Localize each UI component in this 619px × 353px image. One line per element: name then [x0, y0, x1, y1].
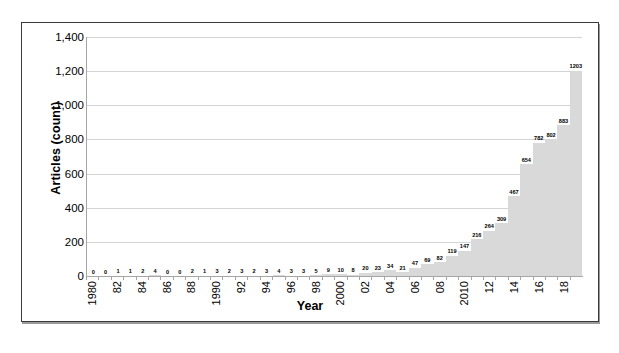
bar-slot: 802 — [545, 37, 557, 276]
bar-value-label: 4 — [277, 268, 280, 275]
bar[interactable] — [570, 71, 582, 276]
bar-value-label: 802 — [546, 132, 555, 139]
x-tick-mark — [347, 276, 348, 280]
bar[interactable] — [508, 196, 520, 276]
bar[interactable] — [434, 262, 446, 276]
bar-slot: 3 — [211, 37, 223, 276]
y-axis-tick-labels: 02004006008001,0001,2001,400 — [34, 37, 84, 276]
bar-value-label: 47 — [412, 260, 418, 267]
x-tick-label: 14 — [508, 281, 520, 293]
bar[interactable] — [495, 223, 507, 276]
bar-slot: 2 — [186, 37, 198, 276]
x-tick-mark — [446, 276, 447, 280]
bar-slot: 119 — [446, 37, 458, 276]
x-tick-mark — [198, 276, 199, 280]
x-tick-mark — [297, 276, 298, 280]
x-tick-mark — [148, 276, 149, 280]
bar[interactable] — [557, 125, 569, 276]
x-tick-mark — [384, 276, 385, 280]
bar-value-label: 1203 — [570, 63, 582, 70]
x-tick-label: 08 — [434, 281, 446, 293]
bar-slot: 3 — [285, 37, 297, 276]
bar-value-label: 216 — [472, 232, 481, 239]
bar-value-label: 309 — [497, 216, 506, 223]
bar-slot: 0 — [161, 37, 173, 276]
bar[interactable] — [545, 139, 557, 276]
bar-value-label: 0 — [166, 269, 169, 276]
bar-slot: 309 — [495, 37, 507, 276]
bar-value-label: 21 — [399, 265, 405, 272]
bar-slot: 20 — [359, 37, 371, 276]
bar-slot: 654 — [520, 37, 532, 276]
x-tick-mark — [495, 276, 496, 280]
bar-value-label: 34 — [387, 263, 393, 270]
bar-value-label: 119 — [448, 248, 457, 255]
bar-value-label: 0 — [104, 269, 107, 276]
x-tick-mark — [222, 276, 223, 280]
bar[interactable] — [520, 164, 532, 276]
bar-value-label: 2 — [253, 268, 256, 275]
x-tick-mark — [458, 276, 459, 280]
x-tick-label: 18 — [558, 281, 570, 293]
bar[interactable] — [483, 231, 495, 276]
y-tick-label: 200 — [34, 236, 84, 248]
bar-slot: 5 — [310, 37, 322, 276]
y-tick-label: 600 — [34, 168, 84, 180]
y-tick-label: 1,200 — [34, 65, 84, 77]
bar-slot: 9 — [322, 37, 334, 276]
bar-slot: 34 — [384, 37, 396, 276]
y-tick-label: 400 — [34, 202, 84, 214]
bar-value-label: 1 — [116, 268, 119, 275]
x-tick-label: 92 — [235, 281, 247, 293]
bar-slot: 2 — [223, 37, 235, 276]
x-tick-mark — [483, 276, 484, 280]
x-tick-label: 96 — [285, 281, 297, 293]
bar-value-label: 3 — [302, 268, 305, 275]
bar-slot: 0 — [174, 37, 186, 276]
x-tick-mark — [322, 276, 323, 280]
bar-value-label: 9 — [327, 267, 330, 274]
bar[interactable] — [458, 251, 470, 276]
bar-value-label: 3 — [265, 268, 268, 275]
x-tick-mark — [409, 276, 410, 280]
bar[interactable] — [409, 268, 421, 276]
bar[interactable] — [471, 239, 483, 276]
bar-slot: 782 — [533, 37, 545, 276]
x-tick-mark — [533, 276, 534, 280]
y-tick-label: 800 — [34, 133, 84, 145]
x-tick-label: 98 — [310, 281, 322, 293]
bar[interactable] — [533, 143, 545, 276]
x-tick-mark — [433, 276, 434, 280]
y-tick-label: 0 — [34, 270, 84, 282]
bar-slot: 467 — [508, 37, 520, 276]
bar-value-label: 1 — [203, 268, 206, 275]
x-tick-mark — [235, 276, 236, 280]
bar[interactable] — [421, 264, 433, 276]
bar-value-label: 782 — [534, 135, 543, 142]
bar-slot: 0 — [99, 37, 111, 276]
bar-value-label: 8 — [352, 267, 355, 274]
bar-value-label: 82 — [437, 255, 443, 262]
x-tick-mark — [309, 276, 310, 280]
bar-value-label: 147 — [460, 243, 469, 250]
x-tick-mark — [210, 276, 211, 280]
x-tick-mark — [371, 276, 372, 280]
bar-slot: 3 — [236, 37, 248, 276]
bar-slot: 147 — [458, 37, 470, 276]
bar-value-label: 467 — [509, 189, 518, 196]
x-tick-mark — [421, 276, 422, 280]
bar-slot: 216 — [471, 37, 483, 276]
x-tick-mark — [160, 276, 161, 280]
bar-value-label: 3 — [290, 268, 293, 275]
bar-value-label: 69 — [424, 257, 430, 264]
x-tick-label: 04 — [384, 281, 396, 293]
x-tick-mark — [86, 276, 87, 280]
bar-value-label: 2 — [191, 268, 194, 275]
bar[interactable] — [446, 256, 458, 276]
bar-slot: 23 — [372, 37, 384, 276]
x-tick-label: 82 — [111, 281, 123, 293]
bar-slot: 264 — [483, 37, 495, 276]
bar-value-label: 3 — [215, 268, 218, 275]
bar-value-label: 23 — [375, 265, 381, 272]
bar-slot: 3 — [260, 37, 272, 276]
